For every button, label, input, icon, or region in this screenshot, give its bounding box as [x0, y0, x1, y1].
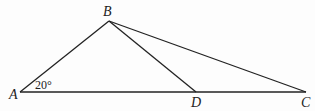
angle-label-a: 20°	[35, 78, 52, 92]
label-point-b: B	[103, 4, 112, 19]
geometry-diagram: B A D C 20°	[0, 0, 315, 111]
segment-bc	[109, 21, 306, 92]
label-point-d: D	[190, 95, 201, 110]
segment-ab	[20, 21, 109, 92]
triangle-figure: B A D C 20°	[0, 0, 315, 111]
label-point-a: A	[8, 87, 18, 102]
segment-bd	[109, 21, 196, 92]
label-point-c: C	[301, 95, 311, 110]
